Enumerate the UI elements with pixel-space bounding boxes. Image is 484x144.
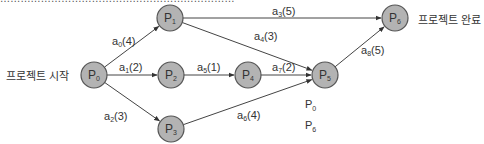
node-p5: P5 <box>312 62 338 88</box>
edge-a3: a3(5) <box>183 5 381 18</box>
edge-label: a1(2) <box>119 61 142 74</box>
node-p6: P6 <box>382 5 408 31</box>
edge-a8: a8(5) <box>335 27 384 67</box>
legend-item: P0 <box>305 96 316 117</box>
edge-label: a6(4) <box>237 109 260 122</box>
node-p1: P1 <box>157 5 183 31</box>
edge-label: a8(5) <box>361 44 384 57</box>
edge-a2: a2(3) <box>104 82 160 123</box>
edge-label: a5(1) <box>197 61 220 74</box>
legend-item: P6 <box>305 117 316 138</box>
end-label: 프로젝트 완료 <box>418 11 482 27</box>
edge-label: a7(2) <box>272 61 295 74</box>
activity-network-diagram: a0(4)a1(2)a2(3)a3(5)a4(3)a5(1)a6(4)a7(2)… <box>0 0 484 144</box>
node-p0: P0 <box>81 62 107 88</box>
edge-label: a4(3) <box>254 30 277 43</box>
node-p4: P4 <box>235 62 261 88</box>
edge-a1: a1(2) <box>107 61 157 75</box>
node-legend: P0P6 <box>305 96 316 138</box>
node-p2: P2 <box>158 62 184 88</box>
node-p3: P3 <box>158 116 184 142</box>
edge-label: a2(3) <box>104 110 127 123</box>
edge-label: a0(4) <box>112 35 135 48</box>
edge-a5: a5(1) <box>184 61 234 75</box>
start-label: 프로젝트 시작 <box>6 67 70 83</box>
edge-a7: a7(2) <box>261 61 311 75</box>
edge-label: a3(5) <box>272 5 295 18</box>
